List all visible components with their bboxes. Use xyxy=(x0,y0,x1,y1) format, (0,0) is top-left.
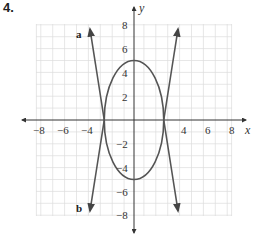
x-tick-label: 4 xyxy=(181,124,187,136)
curve-a-right-branch xyxy=(164,29,178,120)
y-tick-label: 8 xyxy=(122,19,128,31)
curve-a-left-branch xyxy=(90,29,104,120)
y-tick-label: −2 xyxy=(116,138,128,150)
y-axis-label: y xyxy=(138,1,145,15)
y-tick-label: 6 xyxy=(122,43,128,55)
curve-b-right-branch xyxy=(164,120,178,211)
x-tick-label: 8 xyxy=(229,124,235,136)
y-tick-label: 2 xyxy=(122,91,128,103)
y-tick-label: 4 xyxy=(122,67,128,79)
x-axis-label: x xyxy=(244,123,251,137)
y-tick-label: −4 xyxy=(116,162,128,174)
y-tick-label: −8 xyxy=(116,209,128,221)
curve-label-a: a xyxy=(76,28,82,40)
coordinate-plane: a b x y −8 −6 −4 4 6 8 8 6 4 2 −2 −4 −6 … xyxy=(0,0,255,238)
curve-label-b: b xyxy=(76,202,82,214)
x-tick-label: −8 xyxy=(33,124,45,136)
x-tick-label: −6 xyxy=(57,124,69,136)
x-tick-label: 6 xyxy=(205,124,211,136)
y-tick-label: −6 xyxy=(116,186,128,198)
x-tick-label: −4 xyxy=(81,124,93,136)
